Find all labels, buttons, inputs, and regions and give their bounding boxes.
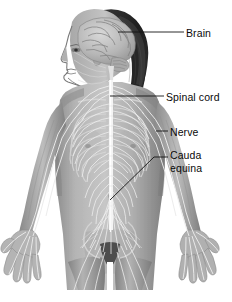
anatomy-illustration: Brain Spinal cord Nerve Cauda equina	[0, 0, 232, 302]
label-cauda-equina: Cauda equina	[170, 149, 230, 174]
label-brain: Brain	[186, 27, 211, 40]
label-cauda-equina-line2: equina	[170, 162, 230, 175]
label-nerve: Nerve	[170, 126, 199, 139]
label-cauda-equina-line1: Cauda	[170, 149, 230, 162]
label-spinal-cord: Spinal cord	[166, 91, 220, 104]
